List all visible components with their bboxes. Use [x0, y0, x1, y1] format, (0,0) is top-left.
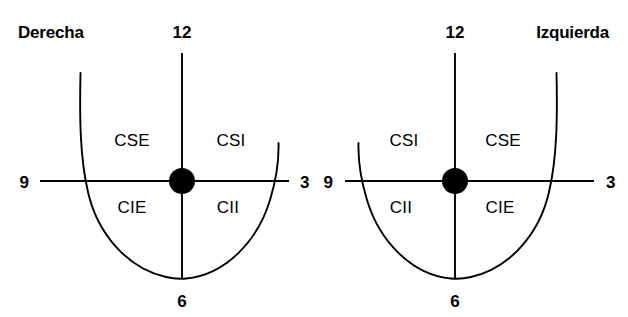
- left-quadrant-cse-label: CSE: [485, 131, 521, 150]
- right-quadrant-cii-label: CII: [217, 198, 239, 217]
- left-breast-group: [345, 53, 594, 279]
- left-breast-side-label: Izquierda: [536, 23, 610, 42]
- right-clock-3-label: 3: [300, 173, 309, 192]
- left-quadrant-csi-label: CSI: [390, 131, 419, 150]
- left-nipple-marker: [442, 168, 468, 194]
- diagram-canvas: Derecha 12 3 6 9 CSE CSI CIE CII Izquier…: [0, 0, 628, 317]
- right-breast-group: [40, 53, 289, 279]
- right-quadrant-cse-label: CSE: [114, 131, 150, 150]
- left-clock-9-label: 9: [324, 173, 333, 192]
- left-quadrant-cii-label: CII: [390, 198, 412, 217]
- right-nipple-marker: [169, 168, 195, 194]
- left-clock-12-label: 12: [446, 23, 465, 42]
- right-quadrant-cie-label: CIE: [118, 198, 147, 217]
- breast-quadrant-figure: Derecha 12 3 6 9 CSE CSI CIE CII Izquier…: [0, 0, 628, 317]
- right-clock-6-label: 6: [177, 292, 186, 311]
- right-breast-side-label: Derecha: [18, 23, 84, 42]
- left-clock-3-label: 3: [606, 173, 615, 192]
- right-quadrant-csi-label: CSI: [217, 131, 246, 150]
- right-clock-9-label: 9: [20, 173, 29, 192]
- left-quadrant-cie-label: CIE: [486, 198, 515, 217]
- right-clock-12-label: 12: [173, 23, 192, 42]
- left-clock-6-label: 6: [450, 292, 459, 311]
